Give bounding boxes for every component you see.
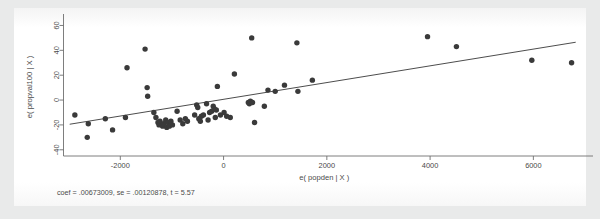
data-point	[86, 121, 91, 126]
data-point	[151, 110, 156, 115]
data-point	[310, 77, 315, 82]
regression-line-group	[70, 42, 576, 124]
data-points-group	[72, 34, 574, 140]
data-point	[145, 94, 150, 99]
data-point	[262, 104, 267, 109]
data-point	[205, 117, 210, 122]
data-point	[192, 112, 197, 117]
regression-line	[70, 42, 576, 124]
axes-group	[60, 14, 594, 160]
data-point	[170, 122, 175, 127]
data-point	[215, 84, 220, 89]
data-point	[252, 120, 257, 125]
data-point	[228, 115, 233, 120]
data-point	[249, 35, 254, 40]
data-point	[272, 89, 277, 94]
x-tick-label-0: 0	[222, 161, 226, 170]
data-point	[201, 112, 206, 117]
data-point	[214, 107, 219, 112]
data-point	[185, 118, 190, 123]
data-point	[425, 34, 430, 39]
y-tick-label-60: 60	[52, 21, 61, 29]
y-tick-label-40: 40	[52, 46, 61, 54]
data-point	[204, 101, 209, 106]
data-point	[250, 100, 255, 105]
data-point	[454, 44, 459, 49]
y-tick-label--20: -20	[52, 120, 61, 131]
data-point	[142, 46, 147, 51]
y-axis-title-text: e( propval100 | X )	[25, 55, 34, 118]
x-tick-label-4000: 4000	[422, 161, 438, 170]
data-point	[180, 121, 185, 126]
x-tick-label-6000: 6000	[525, 161, 541, 170]
data-point	[232, 71, 237, 76]
x-axis-title-text: e( popden | X )	[299, 173, 350, 182]
data-point	[295, 89, 300, 94]
data-point	[153, 115, 158, 120]
y-tick-label--40: -40	[52, 144, 61, 155]
data-point	[85, 135, 90, 140]
y-tick-label-20: 20	[52, 71, 61, 79]
data-point	[198, 118, 203, 123]
scatter-plot: -40-200204060-20000200040006000e( propva…	[0, 0, 600, 219]
data-point	[124, 65, 129, 70]
y-tick-label-0: 0	[52, 98, 61, 102]
axis-labels-group: -40-200204060-20000200040006000e( propva…	[25, 21, 542, 197]
data-point	[72, 112, 77, 117]
data-point	[529, 58, 534, 63]
data-point	[294, 40, 299, 45]
regression-annotation-text: coef = .00673009, se = .00120878, t = 5.…	[57, 188, 195, 197]
x-tick-label--2000: -2000	[111, 161, 130, 170]
figure-container: -40-200204060-20000200040006000e( propva…	[0, 0, 600, 219]
data-point	[103, 116, 108, 121]
data-point	[195, 105, 200, 110]
data-point	[174, 109, 179, 114]
data-point	[123, 115, 128, 120]
data-point	[110, 127, 115, 132]
data-point	[144, 85, 149, 90]
data-point	[569, 60, 574, 65]
data-point	[282, 82, 287, 87]
data-point	[213, 115, 218, 120]
data-point	[265, 87, 270, 92]
x-tick-label-2000: 2000	[319, 161, 335, 170]
